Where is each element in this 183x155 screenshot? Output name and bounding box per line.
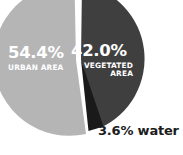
slice-callout-water: 3.6% water	[98, 123, 179, 138]
clipped-caption	[84, 149, 164, 155]
pie-slices	[0, 0, 145, 136]
pie-slice-urban-area[interactable]	[0, 0, 86, 136]
pie-chart: 54.4% URBAN AREA 42.0% VEGETATED AREA 3.…	[0, 0, 183, 155]
